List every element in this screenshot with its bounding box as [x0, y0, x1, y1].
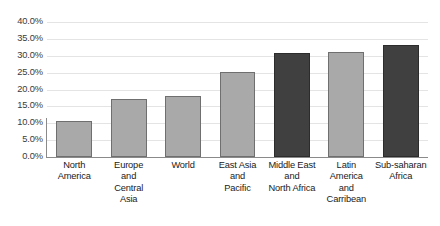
y-axis-tick-label: 25.0% — [0, 68, 43, 77]
x-axis-category-label-line: Pacific — [211, 183, 263, 194]
bar-chart: 40.0%35.0%30.0%25.0%20.0%15.0%10.0%5.0%0… — [0, 0, 440, 226]
x-axis-category-labels: NorthAmericaEuropeandCentralAsiaWorldEas… — [47, 160, 428, 224]
x-axis-category-label-line: North — [48, 160, 100, 171]
x-axis-category-label-line: Central — [102, 183, 154, 194]
bar[interactable] — [383, 45, 419, 157]
bar-slot — [156, 22, 210, 157]
x-axis-category-label-line: America — [320, 171, 372, 182]
plot-area — [47, 22, 428, 157]
bar-slot — [374, 22, 428, 157]
x-axis-category-label-line: Sub-saharan — [375, 160, 427, 171]
x-axis-category-label-line: Africa — [375, 171, 427, 182]
bar[interactable] — [56, 121, 92, 157]
x-axis-category-label-line: America — [48, 171, 100, 182]
bar-slot — [210, 22, 264, 157]
bar[interactable] — [328, 52, 364, 157]
bar-slot — [101, 22, 155, 157]
y-axis-tick-label: 5.0% — [0, 135, 43, 144]
x-axis-category-label-line: East Asia — [211, 160, 263, 171]
y-axis-tick-label: 30.0% — [0, 51, 43, 60]
x-axis-category-label-line: and — [211, 171, 263, 182]
y-axis-tick-label: 0.0% — [0, 152, 43, 161]
x-axis-category-label: East AsiaandPacific — [210, 160, 264, 224]
y-axis-tick-label: 15.0% — [0, 102, 43, 111]
y-axis-tick-label: 40.0% — [0, 17, 43, 26]
x-axis-category-label-line: Middle East — [266, 160, 318, 171]
x-axis-category-label: World — [156, 160, 210, 224]
bar[interactable] — [165, 96, 201, 157]
x-axis-category-label: Middle EastandNorth Africa — [265, 160, 319, 224]
x-axis-category-label: NorthAmerica — [47, 160, 101, 224]
x-axis-category-label: Sub-saharanAfrica — [374, 160, 428, 224]
y-axis-tick-label: 20.0% — [0, 85, 43, 94]
x-axis-category-label-line: Carribean — [320, 194, 372, 205]
bar-series — [47, 22, 428, 157]
x-axis-category-label: EuropeandCentralAsia — [101, 160, 155, 224]
x-axis-category-label-line: World — [157, 160, 209, 171]
y-axis-tick-labels: 40.0%35.0%30.0%25.0%20.0%15.0%10.0%5.0%0… — [0, 0, 43, 226]
x-axis-category-label-line: Europe — [102, 160, 154, 171]
y-axis-tick-label: 10.0% — [0, 119, 43, 128]
axis-baseline — [47, 157, 428, 158]
x-axis-category-label-line: Latin — [320, 160, 372, 171]
x-axis-category-label-line: and — [266, 171, 318, 182]
bar-slot — [319, 22, 373, 157]
bar[interactable] — [220, 72, 256, 157]
x-axis-category-label: LatinAmericaandCarribean — [319, 160, 373, 224]
y-axis-tick-label: 35.0% — [0, 34, 43, 43]
bar[interactable] — [274, 53, 310, 157]
bar-slot — [47, 22, 101, 157]
bar-slot — [265, 22, 319, 157]
x-axis-category-label-line: North Africa — [266, 183, 318, 194]
x-axis-category-label-line: Asia — [102, 194, 154, 205]
bar[interactable] — [111, 99, 147, 157]
x-axis-category-label-line: and — [102, 171, 154, 182]
x-axis-category-label-line: and — [320, 183, 372, 194]
